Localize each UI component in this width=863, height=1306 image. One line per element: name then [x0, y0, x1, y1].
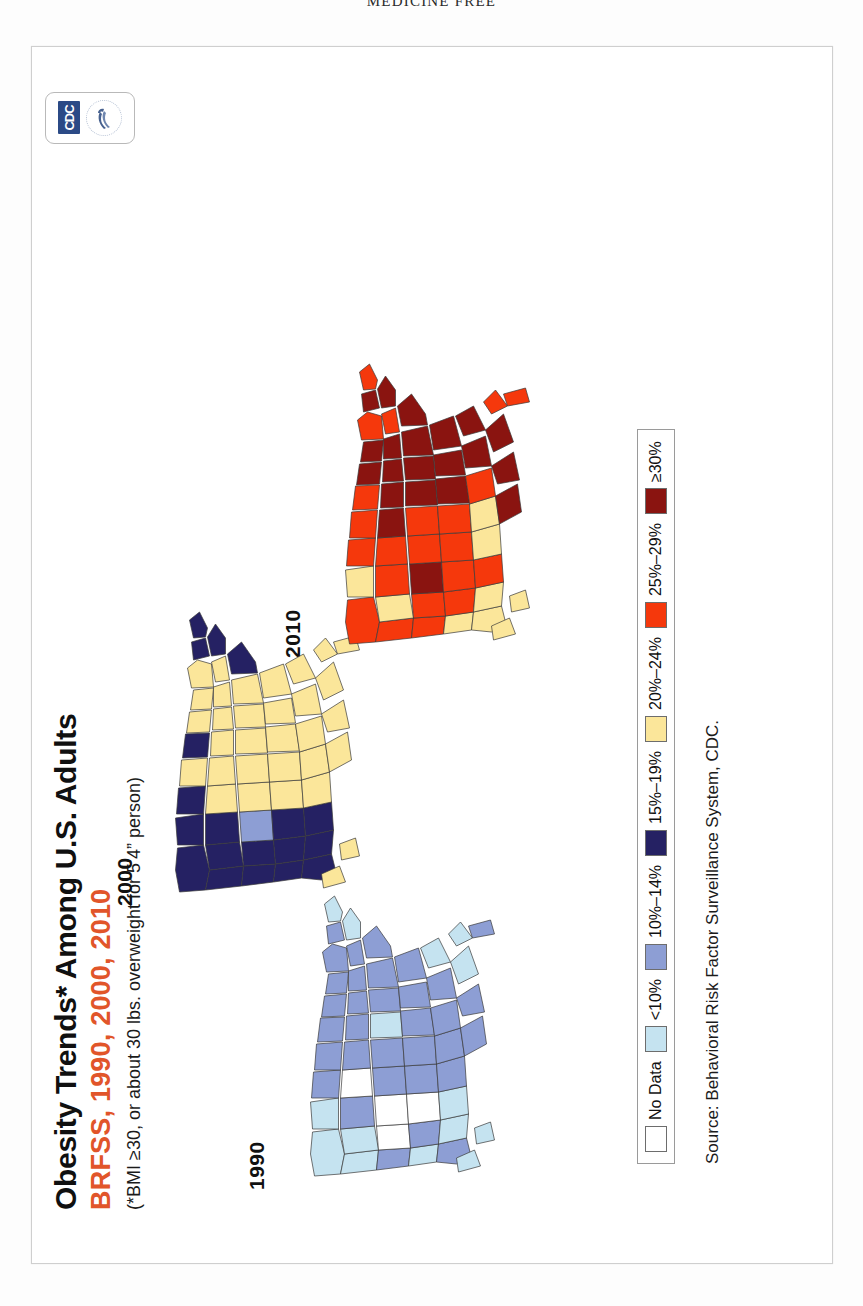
cdc-logo: CDC: [45, 92, 135, 144]
legend-label-10-14: 10%–14%: [647, 865, 665, 938]
legend-item-10-14: 10%–14%: [645, 865, 667, 970]
legend-swatch-15-19: [645, 830, 667, 856]
us-map-svg-2010: [321, 352, 546, 652]
map-legend: No Data <10% 10%–14% 15%–19% 20%–24% 25%…: [637, 429, 675, 1164]
legend-item-no-data: No Data: [645, 1061, 667, 1152]
map-states-2000: [176, 612, 360, 892]
legend-label-no-data: No Data: [647, 1061, 665, 1120]
running-head: MEDICINE FREE: [0, 0, 863, 10]
cdc-wordmark-label: CDC: [62, 105, 77, 130]
legend-label-25-29: 25%–29%: [647, 523, 665, 596]
source-line: Source: Behavioral Risk Factor Surveilla…: [703, 720, 723, 1164]
hhs-seal-icon: [86, 100, 122, 136]
slide-canvas: Obesity Trends* Among U.S. Adults BRFSS,…: [31, 46, 831, 1262]
legend-item-lt10: <10%: [645, 979, 667, 1052]
choropleth-map-1990: [286, 884, 511, 1184]
legend-item-25-29: 25%–29%: [645, 523, 667, 628]
legend-label-lt10: <10%: [647, 979, 665, 1020]
legend-swatch-20-24: [645, 716, 667, 742]
legend-label-15-19: 15%–19%: [647, 751, 665, 824]
map-year-label-2000: 2000: [113, 857, 137, 906]
legend-swatch-10-14: [645, 944, 667, 970]
legend-swatch-lt10: [645, 1026, 667, 1052]
legend-label-ge30: ≥30%: [647, 441, 665, 482]
cdc-wordmark-icon: CDC: [58, 102, 80, 135]
legend-swatch-no-data: [645, 1126, 667, 1152]
legend-item-15-19: 15%–19%: [645, 751, 667, 856]
legend-swatch-ge30: [645, 488, 667, 514]
legend-swatch-25-29: [645, 602, 667, 628]
map-states-2010: [346, 364, 530, 644]
map-states-1990: [311, 896, 495, 1176]
legend-label-20-24: 20%–24%: [647, 637, 665, 710]
page-title: Obesity Trends* Among U.S. Adults: [49, 510, 83, 1210]
map-year-label-1990: 1990: [245, 1141, 269, 1190]
us-map-svg-1990: [286, 884, 511, 1184]
legend-item-20-24: 20%–24%: [645, 637, 667, 742]
legend-item-ge30: ≥30%: [645, 441, 667, 514]
choropleth-map-2010: [321, 352, 546, 652]
